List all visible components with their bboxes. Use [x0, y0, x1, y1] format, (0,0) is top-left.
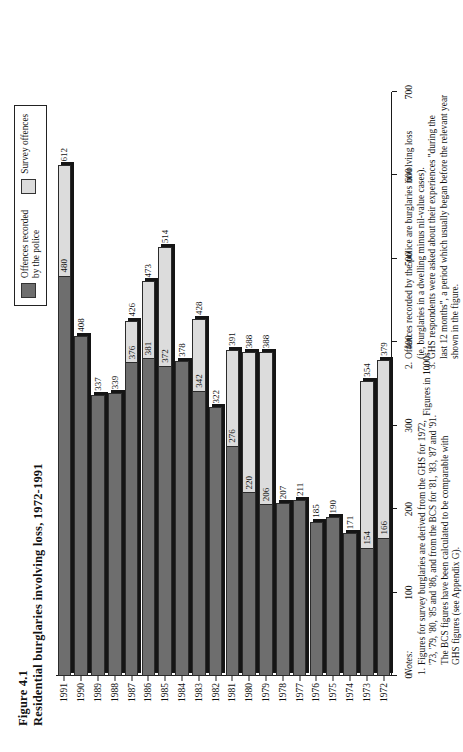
figure-number: Figure 4.1 — [16, 463, 31, 726]
bar-police — [192, 391, 206, 676]
category-label: 1990 — [76, 683, 86, 702]
category-tick — [81, 676, 82, 681]
category-tick — [249, 676, 250, 681]
bar-police — [91, 395, 105, 676]
bar-row: 5143721985 — [158, 247, 172, 676]
note-2-line-2: (ie, burglaries in a dwelling minus nil-… — [416, 69, 428, 359]
note-1-number: 1. — [417, 668, 463, 675]
category-label: 1983 — [194, 683, 204, 702]
bar-police — [125, 362, 139, 676]
legend-label-survey: Survey offences — [20, 114, 31, 174]
category-label: 1979 — [261, 683, 271, 702]
bar-value-label-outer: 211 — [295, 483, 305, 496]
note-1-line-1: Figures for survey burglaries are derive… — [417, 383, 429, 665]
legend-swatch-police-icon — [21, 283, 36, 298]
bar-value-label-outer: 322 — [211, 390, 221, 404]
bar-value-label-inner: 154 — [362, 531, 372, 545]
bar-value-label-outer: 514 — [160, 230, 170, 244]
value-tick — [392, 341, 397, 342]
category-label: 1981 — [227, 683, 237, 702]
value-tick — [392, 258, 397, 259]
figure-title: Residential burglaries involving loss, 1… — [31, 463, 46, 726]
note-1-line-3: The BCS figures have been calculated to … — [440, 383, 452, 665]
note-2-line-1: Offences recorded by the police are burg… — [404, 69, 416, 359]
bar-value-label-inner: 276 — [227, 429, 237, 443]
bar-row: 3882201980 — [242, 352, 256, 676]
note-3-line-3: shown in the figure. — [450, 69, 462, 359]
category-tick — [232, 676, 233, 681]
bar-value-label-inner: 480 — [59, 259, 69, 273]
bar-value-label-outer: 473 — [143, 264, 153, 278]
category-label: 1982 — [211, 683, 221, 702]
bar-value-label-outer: 428 — [194, 301, 204, 315]
bar-row: 6124801991 — [58, 165, 72, 676]
bar-police — [108, 393, 122, 676]
bar-value-label-outer: 171 — [345, 516, 355, 530]
category-label: 1985 — [160, 683, 170, 702]
bar-police — [326, 518, 340, 677]
category-tick — [182, 676, 183, 681]
category-tick — [64, 676, 65, 681]
bar-row: 3221982 — [209, 407, 223, 676]
bar-value-label-outer: 339 — [110, 376, 120, 390]
bar-police — [242, 492, 256, 676]
category-label: 1975 — [328, 683, 338, 702]
bar-value-label-inner: 376 — [127, 346, 137, 360]
notes-heading: Notes: — [404, 383, 416, 675]
category-tick — [333, 676, 334, 681]
note-item-2: 2. Offences recorded by the police are b… — [404, 69, 427, 369]
bar-value-label-outer: 207 — [278, 486, 288, 500]
bar-police — [158, 366, 172, 676]
bar-police — [377, 538, 391, 676]
chart-legend: Offences recorded by the police Survey o… — [14, 105, 47, 306]
bar-value-label-inner: 372 — [160, 349, 170, 363]
bar-row: 4081990 — [74, 336, 88, 676]
category-tick — [316, 676, 317, 681]
note-1-line-4: GHS figures (see Appendix G). — [451, 383, 463, 665]
bar-row: 3371989 — [91, 395, 105, 676]
bar-row: 3882061979 — [259, 352, 273, 676]
bar-police — [226, 446, 240, 676]
bar-value-label-outer: 354 — [362, 363, 372, 377]
bar-police — [74, 336, 88, 676]
category-tick — [131, 676, 132, 681]
notes-column-left: Notes: 1. Figures for survey burglaries … — [404, 383, 463, 675]
category-tick — [266, 676, 267, 681]
bar-police — [209, 407, 223, 676]
legend-label-survey-line1: Survey offences — [20, 114, 30, 174]
category-tick — [165, 676, 166, 681]
legend-swatch-survey-icon — [21, 179, 36, 194]
category-label: 1978 — [278, 683, 288, 702]
note-item-3: 3. GHS respondents were asked about thei… — [427, 69, 462, 369]
category-tick — [114, 676, 115, 681]
bar-value-label-outer: 391 — [227, 332, 237, 346]
category-label: 1984 — [177, 683, 187, 702]
category-tick — [282, 676, 283, 681]
bar-row: 1711974 — [343, 533, 357, 676]
bar-row: 4733811986 — [142, 281, 156, 676]
bar-value-label-inner: 166 — [379, 521, 389, 535]
bar-row: 3781984 — [175, 361, 189, 676]
category-label: 1988 — [110, 683, 120, 702]
category-tick — [148, 676, 149, 681]
legend-item-police: Offences recorded by the police — [20, 210, 41, 298]
note-1-line-2: '73, '79, '80, '85 and '86, and from the… — [428, 383, 440, 665]
bar-police — [58, 276, 72, 676]
bar-police — [142, 358, 156, 676]
bar-police — [360, 548, 374, 676]
bar-police — [293, 500, 307, 676]
legend-label-police: Offences recorded by the police — [20, 210, 41, 278]
bar-police — [259, 504, 273, 676]
bar-row: 4283421983 — [192, 319, 206, 676]
bar-value-label-outer: 388 — [261, 335, 271, 349]
note-3-number: 3. — [427, 362, 462, 369]
value-tick — [392, 675, 397, 676]
category-tick — [215, 676, 216, 681]
bar-value-label-outer: 612 — [59, 148, 69, 162]
value-tick — [392, 174, 397, 175]
bar-row: 3541541973 — [360, 381, 374, 676]
bar-police — [343, 533, 357, 676]
bar-row: 3391988 — [108, 393, 122, 676]
category-label: 1991 — [59, 683, 69, 702]
category-tick — [98, 676, 99, 681]
